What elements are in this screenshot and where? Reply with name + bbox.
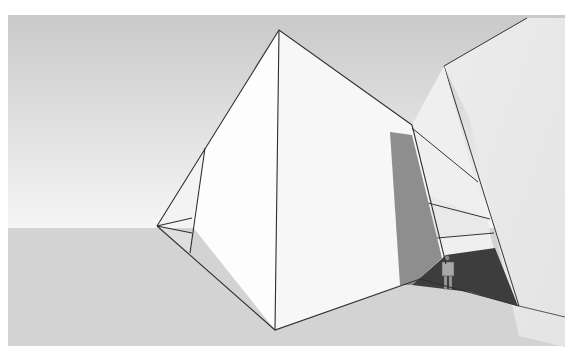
model-viewport[interactable]	[0, 0, 573, 355]
scene-render	[0, 0, 573, 355]
